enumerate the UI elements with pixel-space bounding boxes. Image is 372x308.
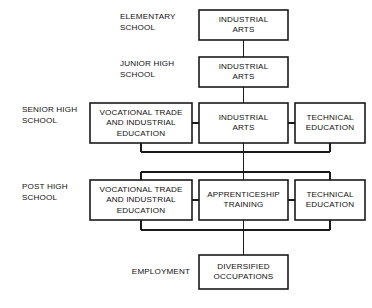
box-label-senior-high-vocational-trade: EDUCATION <box>117 129 165 138</box>
box-label-post-high-apprenticeship-training: TRAINING <box>224 200 264 209</box>
box-label-senior-high-vocational-trade: AND INDUSTRIAL <box>106 118 176 127</box>
box-label-senior-high-vocational-trade: VOCATIONAL TRADE <box>99 108 183 117</box>
box-label-post-high-vocational-trade: AND INDUSTRIAL <box>106 195 176 204</box>
stage-label-senior-high-school: SENIOR HIGHSCHOOL <box>22 105 77 124</box>
stage-label-text-senior-high-school: SCHOOL <box>22 116 57 125</box>
box-label-post-high-technical-education: EDUCATION <box>306 200 354 209</box>
box-senior-high-vocational-trade[interactable]: VOCATIONAL TRADEAND INDUSTRIALEDUCATION <box>90 103 192 143</box>
stage-label-text-post-high-school: POST HIGH <box>22 182 68 191</box>
stage-label-junior-high-school: JUNIOR HIGHSCHOOL <box>120 59 174 78</box>
diagram-canvas: INDUSTRIALARTSINDUSTRIALARTSVOCATIONAL T… <box>0 0 372 308</box>
stage-label-text-elementary-school: ELEMENTARY <box>120 12 176 21</box>
box-senior-high-technical-education[interactable]: TECHNICALEDUCATION <box>295 103 365 143</box>
boxes-layer: INDUSTRIALARTSINDUSTRIALARTSVOCATIONAL T… <box>90 10 365 289</box>
stage-label-text-elementary-school: SCHOOL <box>120 23 155 32</box>
box-label-senior-high-technical-education: TECHNICAL <box>306 113 354 122</box>
box-label-post-high-vocational-trade: VOCATIONAL TRADE <box>99 185 183 194</box>
box-label-employment-diversified-occupations: DIVERSIFIED <box>217 262 269 271</box>
box-label-employment-diversified-occupations: OCCUPATIONS <box>214 272 274 281</box>
education-pathways-diagram: INDUSTRIALARTSINDUSTRIALARTSVOCATIONAL T… <box>0 0 372 308</box>
box-label-post-high-vocational-trade: EDUCATION <box>117 206 165 215</box>
stage-label-text-senior-high-school: SENIOR HIGH <box>22 105 77 114</box>
stage-label-text-junior-high-school: JUNIOR HIGH <box>120 59 174 68</box>
box-label-post-high-technical-education: TECHNICAL <box>306 190 354 199</box>
stage-label-text-post-high-school: SCHOOL <box>22 193 57 202</box>
stage-label-text-employment: EMPLOYMENT <box>132 267 190 276</box>
box-label-elementary-industrial-arts: ARTS <box>232 25 254 34</box>
box-label-junior-high-industrial-arts: INDUSTRIAL <box>219 62 269 71</box>
stage-label-employment: EMPLOYMENT <box>132 267 190 276</box>
box-post-high-vocational-trade[interactable]: VOCATIONAL TRADEAND INDUSTRIALEDUCATION <box>90 180 192 220</box>
stage-label-elementary-school: ELEMENTARYSCHOOL <box>120 12 176 31</box>
box-label-post-high-apprenticeship-training: APPRENTICESHIP <box>207 190 280 199</box>
box-label-senior-high-industrial-arts: INDUSTRIAL <box>219 113 269 122</box>
stage-labels-layer: ELEMENTARYSCHOOLJUNIOR HIGHSCHOOLSENIOR … <box>22 12 190 276</box>
box-post-high-technical-education[interactable]: TECHNICALEDUCATION <box>295 180 365 220</box>
box-elementary-industrial-arts[interactable]: INDUSTRIALARTS <box>199 10 288 40</box>
box-employment-diversified-occupations[interactable]: DIVERSIFIEDOCCUPATIONS <box>199 255 288 289</box>
box-label-senior-high-technical-education: EDUCATION <box>306 123 354 132</box>
box-label-junior-high-industrial-arts: ARTS <box>232 72 254 81</box>
box-junior-high-industrial-arts[interactable]: INDUSTRIALARTS <box>199 57 288 87</box>
box-label-senior-high-industrial-arts: ARTS <box>232 123 254 132</box>
box-post-high-apprenticeship-training[interactable]: APPRENTICESHIPTRAINING <box>199 180 288 220</box>
stage-label-text-junior-high-school: SCHOOL <box>120 70 155 79</box>
box-senior-high-industrial-arts[interactable]: INDUSTRIALARTS <box>199 103 288 143</box>
box-label-elementary-industrial-arts: INDUSTRIAL <box>219 15 269 24</box>
stage-label-post-high-school: POST HIGHSCHOOL <box>22 182 68 201</box>
